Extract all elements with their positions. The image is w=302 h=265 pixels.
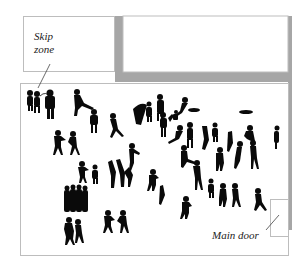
floorplan-diagram: Skip zone Main door — [0, 0, 302, 265]
skip-zone-label-line1: Skip — [34, 30, 54, 43]
skip-zone-label: Skip zone — [34, 30, 54, 56]
main-door-box — [271, 200, 289, 237]
main-door-label: Main door — [212, 229, 259, 242]
skip-zone-label-line2: zone — [34, 43, 54, 56]
upper-room — [123, 16, 288, 72]
